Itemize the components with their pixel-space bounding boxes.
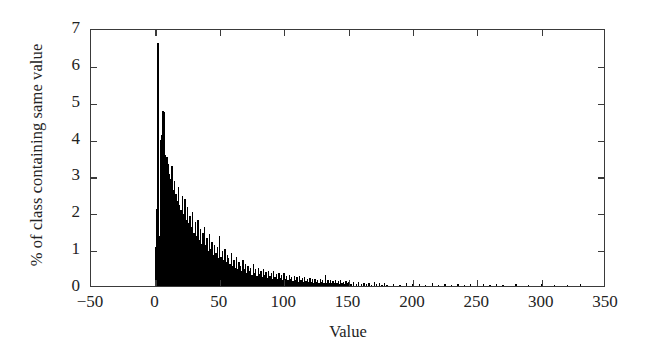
histogram-bar: [444, 284, 445, 286]
histogram-bar: [356, 284, 357, 286]
x-axis-tick: [155, 280, 156, 286]
y-axis-tick: [598, 67, 604, 68]
x-axis-tick: [542, 30, 543, 36]
histogram-bar: [425, 285, 426, 286]
y-tick-label: 1: [56, 239, 80, 259]
x-axis-tick: [155, 30, 156, 36]
y-axis-tick: [91, 177, 97, 178]
y-axis-tick: [91, 141, 97, 142]
x-axis-tick: [220, 280, 221, 286]
plot-area: [90, 29, 605, 287]
x-tick-label: 250: [441, 292, 511, 312]
x-axis-tick: [349, 280, 350, 286]
histogram-bar: [528, 285, 529, 286]
x-tick-label: 200: [377, 292, 447, 312]
y-tick-label: 2: [56, 202, 80, 222]
x-axis-tick: [220, 30, 221, 36]
x-axis-tick: [477, 280, 478, 286]
histogram-bar: [379, 283, 380, 286]
x-tick-label: 50: [184, 292, 254, 312]
x-tick-label: 300: [506, 292, 576, 312]
y-axis-tick: [91, 251, 97, 252]
x-axis-title: Value: [90, 322, 606, 342]
y-tick-label: 7: [56, 18, 80, 38]
x-tick-label: 100: [248, 292, 318, 312]
histogram-bar: [515, 284, 516, 286]
histogram-bar: [406, 283, 407, 286]
y-axis-tick: [598, 177, 604, 178]
histogram-bar: [381, 285, 382, 286]
histogram-bar: [470, 284, 471, 286]
x-tick-label: 350: [570, 292, 640, 312]
x-axis-tick: [477, 30, 478, 36]
histogram-bar: [386, 285, 387, 286]
histogram-bar: [489, 285, 490, 286]
y-tick-label: 0: [56, 276, 80, 296]
histogram-bar: [374, 282, 375, 286]
histogram-bar: [464, 285, 465, 286]
y-tick-label: 5: [56, 92, 80, 112]
histogram-bar: [451, 285, 452, 286]
histogram-bar: [353, 282, 354, 286]
y-axis-tick: [598, 141, 604, 142]
x-tick-label: 150: [313, 292, 383, 312]
y-axis-tick: [598, 214, 604, 215]
y-axis-tick: [598, 104, 604, 105]
x-axis-tick: [349, 30, 350, 36]
x-axis-tick: [413, 30, 414, 36]
x-axis-tick: [542, 280, 543, 286]
x-axis-tick: [284, 280, 285, 286]
y-axis-tick: [91, 67, 97, 68]
y-axis-title: % of class containing same value: [22, 5, 52, 305]
histogram-bar: [419, 284, 420, 286]
y-tick-label: 3: [56, 165, 80, 185]
histogram-bar: [350, 284, 351, 286]
histogram-bar: [554, 285, 555, 286]
x-axis-tick: [284, 30, 285, 36]
histogram-bar: [376, 284, 377, 286]
histogram-bar: [502, 285, 503, 286]
histogram-bar: [368, 283, 369, 286]
x-tick-label: 0: [119, 292, 189, 312]
histogram-bar: [567, 285, 568, 286]
histogram-bar: [358, 282, 359, 286]
y-tick-label: 6: [56, 55, 80, 75]
histogram-bars: [91, 30, 604, 286]
histogram-bar: [457, 284, 458, 286]
y-axis-tick: [91, 214, 97, 215]
histogram-bar: [361, 284, 362, 286]
histogram-bar: [438, 285, 439, 286]
y-axis-tick: [91, 104, 97, 105]
y-axis-tick: [598, 251, 604, 252]
histogram-bar: [399, 285, 400, 286]
y-tick-label: 4: [56, 129, 80, 149]
histogram-bar: [384, 283, 385, 286]
histogram-bar: [432, 283, 433, 286]
histogram-figure: % of class containing same value Value −…: [0, 0, 646, 357]
x-axis-tick: [413, 280, 414, 286]
histogram-bar: [580, 284, 581, 286]
histogram-bar: [363, 283, 364, 286]
histogram-bar: [393, 284, 394, 286]
histogram-bar: [371, 285, 372, 286]
histogram-bar: [496, 284, 497, 286]
histogram-bar: [483, 284, 484, 286]
histogram-bar: [366, 284, 367, 286]
